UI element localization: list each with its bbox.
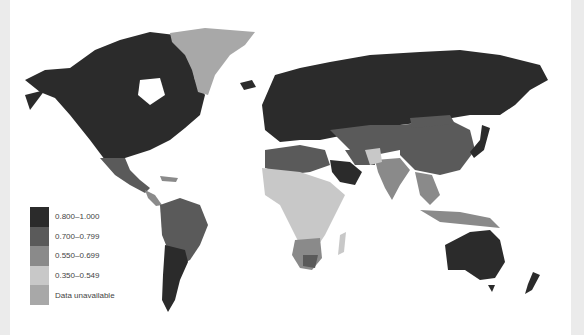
- region-central-america: [145, 190, 162, 206]
- region-madagascar: [338, 232, 346, 255]
- region-caribbean: [160, 176, 178, 182]
- legend-item-unavailable: Data unavailable: [30, 285, 115, 305]
- legend-swatch: [30, 227, 49, 247]
- legend-item-0800-1000: 0.800–1.000: [30, 207, 115, 227]
- region-alaska: [25, 90, 45, 110]
- region-new-zealand: [525, 272, 540, 294]
- region-south-africa: [303, 255, 318, 268]
- region-tasmania: [488, 285, 495, 292]
- region-southern-cone: [162, 245, 188, 312]
- legend-item-0550-0699: 0.550–0.699: [30, 246, 115, 266]
- legend-label: Data unavailable: [55, 291, 115, 300]
- legend-label: 0.550–0.699: [55, 251, 100, 260]
- region-sub-saharan-africa: [262, 168, 345, 250]
- region-india: [375, 158, 410, 200]
- region-japan: [470, 125, 490, 158]
- legend-swatch: [30, 207, 49, 227]
- legend-swatch: [30, 266, 49, 286]
- legend: 0.800–1.000 0.700–0.799 0.550–0.699 0.35…: [30, 207, 115, 305]
- legend-swatch: [30, 246, 49, 266]
- legend-label: 0.700–0.799: [55, 232, 100, 241]
- legend-label: 0.350–0.549: [55, 271, 100, 280]
- legend-swatch: [30, 285, 49, 305]
- region-australia: [445, 230, 505, 280]
- region-iceland: [240, 80, 256, 90]
- legend-item-0350-0549: 0.350–0.549: [30, 266, 115, 286]
- legend-label: 0.800–1.000: [55, 212, 100, 221]
- region-indonesia: [420, 210, 500, 228]
- region-southeast-asia: [415, 172, 440, 205]
- region-north-america: [25, 32, 205, 160]
- legend-item-0700-0799: 0.700–0.799: [30, 227, 115, 247]
- region-china: [400, 120, 475, 175]
- region-mexico: [100, 158, 150, 193]
